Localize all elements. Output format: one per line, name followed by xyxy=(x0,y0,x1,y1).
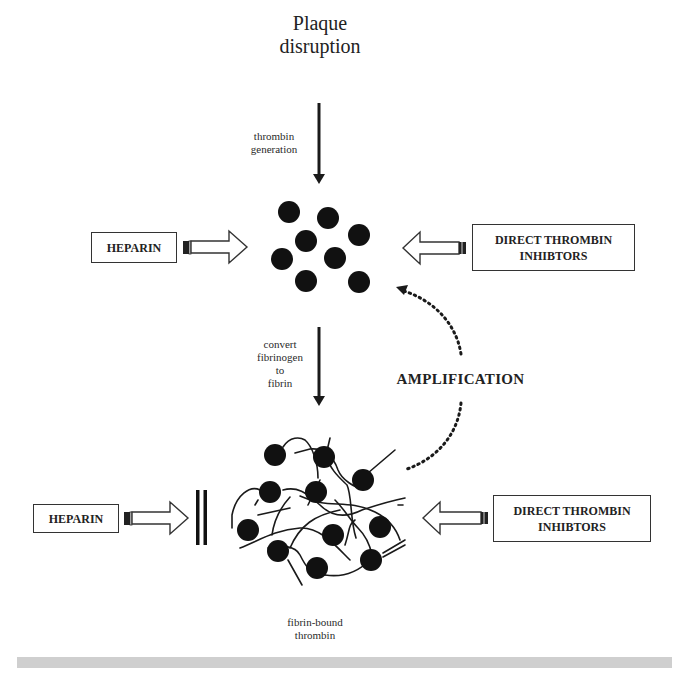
bound-thrombin-molecule-icon xyxy=(306,557,328,579)
heparin-bottom-inhibit-arrow-icon xyxy=(124,502,188,534)
bound-thrombin-molecule-icon xyxy=(313,446,335,468)
thrombin-generation-arrow xyxy=(313,103,325,184)
free-thrombin-cluster xyxy=(271,201,370,293)
bound-thrombin-molecule-icon xyxy=(237,519,259,541)
bound-thrombin-molecule-icon xyxy=(322,524,344,546)
convert-fibrinogen-arrow xyxy=(313,327,325,406)
bound-thrombin-molecule-icon xyxy=(305,481,327,503)
dti-top-inhibit-arrow-icon xyxy=(403,232,466,264)
thrombin-molecule-icon xyxy=(278,201,300,223)
thrombin-molecule-icon xyxy=(295,270,317,292)
thrombin-molecule-icon xyxy=(295,230,317,252)
bound-thrombin-molecule-icon xyxy=(360,549,382,571)
bound-thrombin-molecule-icon xyxy=(259,481,281,503)
amplification-dotted-arrow xyxy=(396,285,461,470)
double-vertical-bar-block-icon xyxy=(196,490,207,545)
thrombin-molecule-icon xyxy=(348,271,370,293)
thrombin-molecule-icon xyxy=(271,248,293,270)
heparin-top-inhibit-arrow-icon xyxy=(183,231,247,263)
bound-thrombin-molecule-icon xyxy=(264,444,286,466)
thrombin-molecule-icon xyxy=(324,247,346,269)
bound-thrombin-molecule-icon xyxy=(352,469,374,491)
bound-thrombin-molecule-icon xyxy=(267,540,289,562)
dti-bottom-inhibit-arrow-icon xyxy=(423,502,488,534)
thrombin-molecule-icon xyxy=(317,207,339,229)
diagram-graphics xyxy=(0,0,686,680)
bound-thrombin-molecule-icon xyxy=(369,516,391,538)
fibrin-bound-thrombin-cluster xyxy=(237,444,391,579)
thrombin-molecule-icon xyxy=(348,224,370,246)
